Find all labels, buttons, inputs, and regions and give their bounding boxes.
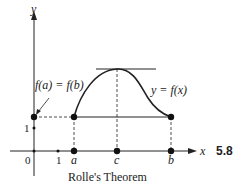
point-a-curve	[71, 114, 77, 120]
rolles-theorem-diagram: y x 0 1 1 a c b f(a) = f(b) y = f(x) Rol…	[0, 0, 244, 194]
point-c-label: c	[114, 153, 120, 167]
point-fa-yaxis	[31, 114, 37, 120]
figure-caption: Rolle's Theorem	[68, 170, 148, 184]
y-tick-one-label: 1	[24, 122, 30, 134]
y-axis-label: y	[30, 2, 37, 16]
x-tick-one-label: 1	[56, 154, 62, 166]
x-axis-label: x	[199, 144, 206, 158]
tick-y-one	[33, 127, 36, 130]
figure-number: 5.8	[216, 144, 233, 158]
tick-x-one	[57, 150, 60, 153]
pointer-arrow	[38, 98, 49, 112]
curve-label: y = f(x)	[150, 83, 187, 97]
point-b-label: b	[168, 153, 174, 167]
x-axis-arrow-icon	[188, 148, 197, 154]
point-a-label: a	[71, 153, 77, 167]
equal-values-label: f(a) = f(b)	[35, 78, 84, 92]
origin-label: 0	[25, 154, 31, 166]
pointer-arrowhead-icon	[36, 109, 41, 115]
point-b-curve	[168, 114, 174, 120]
origin-dot	[33, 150, 36, 153]
